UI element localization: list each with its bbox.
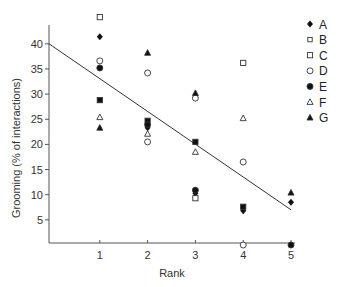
y-tick-label: 15	[31, 164, 43, 176]
legend-marker-circle-filled-icon	[307, 83, 313, 89]
legend-item-b: B	[308, 33, 327, 47]
data-point-f	[97, 114, 103, 120]
data-point-e	[97, 65, 103, 71]
scatter-chart: 510152025303540 12345 Rank Grooming (% o…	[0, 0, 339, 287]
legend-label: C	[319, 49, 328, 63]
y-tick-label: 30	[31, 88, 43, 100]
legend-label: F	[319, 96, 326, 110]
legend-item-g: G	[307, 111, 328, 125]
data-point-b	[97, 98, 102, 103]
data-point-b	[193, 139, 198, 144]
data-point-f	[192, 149, 198, 155]
legend-marker-diamond-filled-icon	[307, 21, 313, 28]
data-point-d	[145, 139, 151, 145]
y-tick-label: 25	[31, 113, 43, 125]
regression-line	[49, 44, 291, 210]
data-point-c	[97, 15, 102, 20]
data-point-f	[240, 115, 246, 121]
x-tick-label: 3	[192, 249, 198, 261]
y-tick-label: 40	[31, 38, 43, 50]
data-point-g	[97, 125, 103, 131]
legend-item-f: F	[307, 96, 326, 110]
x-tick-label: 5	[288, 249, 294, 261]
legend-label: D	[319, 64, 328, 78]
y-tick-label: 5	[37, 214, 43, 226]
x-tick-label: 2	[145, 249, 151, 261]
data-point-g	[192, 90, 198, 96]
legend-label: E	[319, 80, 327, 94]
legend-marker-square-open-icon	[307, 53, 312, 58]
legend-marker-circle-open-icon	[307, 68, 313, 74]
y-tick-label: 10	[31, 189, 43, 201]
data-point-e	[145, 122, 151, 128]
legend-marker-triangle-filled-icon	[307, 114, 313, 120]
legend-item-a: A	[307, 18, 327, 32]
data-point-d	[97, 58, 103, 64]
axes: 510152025303540 12345 Rank Grooming (% o…	[10, 25, 295, 279]
data-point-a	[288, 199, 294, 206]
data-point-f	[145, 131, 151, 137]
y-tick-label: 20	[31, 138, 43, 150]
data-point-g	[288, 189, 294, 195]
x-axis-title: Rank	[159, 267, 185, 279]
data-point-c	[241, 60, 246, 65]
data-point-d	[240, 159, 246, 165]
legend-item-e: E	[307, 80, 327, 94]
data-point-d	[192, 95, 198, 101]
data-point-c	[193, 196, 198, 201]
y-tick-label: 35	[31, 63, 43, 75]
legend-label: A	[319, 18, 327, 32]
data-points	[97, 15, 294, 248]
legend-item-c: C	[307, 49, 328, 63]
x-tick-label: 4	[240, 249, 246, 261]
data-point-d	[240, 242, 246, 248]
y-ticks: 510152025303540	[31, 38, 49, 226]
legend-marker-square-open-small-icon	[308, 37, 312, 41]
data-point-b	[241, 204, 246, 209]
legend-marker-triangle-open-icon	[307, 99, 313, 105]
data-point-e	[288, 242, 294, 248]
data-point-d	[145, 70, 151, 76]
y-axis-title: Grooming (% of interactions)	[10, 78, 22, 218]
data-point-g	[145, 50, 151, 56]
x-tick-label: 1	[97, 249, 103, 261]
legend-label: B	[319, 33, 327, 47]
legend-item-d: D	[307, 64, 328, 78]
data-point-e	[192, 187, 198, 193]
legend: ABCDEFG	[307, 18, 328, 126]
legend-label: G	[319, 111, 328, 125]
data-point-a	[97, 33, 103, 40]
